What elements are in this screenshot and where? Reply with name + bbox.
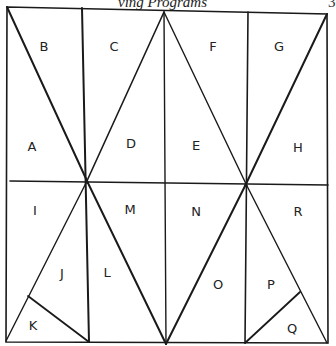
outer-border [6,7,328,343]
region-label-o: O [213,277,223,292]
diagonal-i-j [6,181,87,341]
region-label-a: A [28,139,37,154]
region-label-g: G [274,39,284,54]
diagonal-c-d [86,12,164,183]
diagonal-f-e [164,12,247,186]
vertical-line-2 [164,12,166,344]
region-label-k: K [29,318,38,333]
region-label-q: Q [287,321,297,336]
folding-diagram [0,0,336,346]
region-label-r: R [293,204,302,219]
region-label-j: J [60,266,64,281]
region-label-b: B [40,39,49,54]
region-label-p: P [267,277,275,292]
region-label-f: F [209,39,216,54]
diagonal-n-o [166,184,246,344]
vertical-line-3 [245,12,248,343]
region-label-i: I [33,203,37,218]
region-label-n: N [191,204,201,219]
diagonal-b-a [7,7,88,183]
region-label-e: E [192,138,200,153]
region-label-m: M [124,202,135,217]
vertical-line-1 [82,8,89,342]
region-label-h: H [293,140,303,155]
region-label-d: D [126,136,136,151]
region-label-c: C [109,39,118,54]
diagonal-g-h [245,14,327,186]
horizontal-line [10,181,328,185]
diagonal-r-p [246,184,327,343]
region-label-l: L [103,265,110,280]
